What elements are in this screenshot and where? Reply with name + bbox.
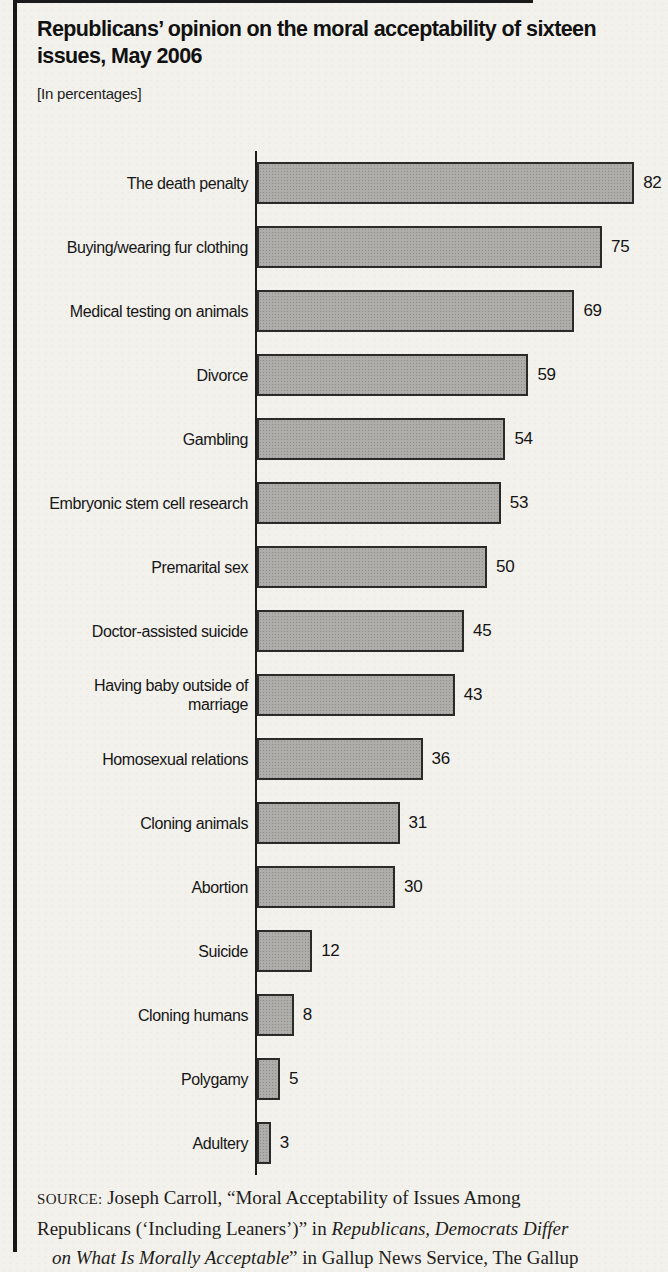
chart-row: Suicide 12 [37, 919, 650, 983]
source-label: SOURCE: [37, 1191, 102, 1207]
category-label: Abortion [37, 878, 255, 897]
chart-row: Medical testing on animals 69 [37, 279, 650, 343]
value-label: 75 [611, 237, 629, 257]
bar-track: 54 [255, 407, 650, 471]
value-label: 53 [510, 493, 528, 513]
chart-row: Embryonic stem cell research 53 [37, 471, 650, 535]
bar-track: 69 [255, 279, 650, 343]
chart-row: Abortion 30 [37, 855, 650, 919]
source-line3: on What Is Morally Acceptable” in Gallup… [37, 1243, 650, 1272]
bar [257, 610, 464, 652]
units-note: [In percentages] [37, 85, 650, 102]
value-label: 50 [496, 557, 514, 577]
value-label: 5 [289, 1069, 298, 1089]
bar [257, 866, 395, 908]
category-label: Suicide [37, 942, 255, 961]
category-label: Homosexual relations [37, 750, 255, 769]
category-label: Medical testing on animals [37, 302, 255, 321]
chart-row: Gambling 54 [37, 407, 650, 471]
chart-row: Buying/wearing fur clothing 75 [37, 215, 650, 279]
category-label: Cloning humans [37, 1006, 255, 1025]
bar [257, 290, 574, 332]
value-label: 8 [303, 1005, 312, 1025]
category-label: Gambling [37, 430, 255, 449]
value-label: 43 [464, 685, 482, 705]
source-line1: Joseph Carroll, “Moral Acceptability of … [102, 1187, 520, 1208]
category-label: Cloning animals [37, 814, 255, 833]
chart-row: Adultery 3 [37, 1111, 650, 1175]
value-label: 12 [321, 941, 339, 961]
bar-track: 45 [255, 599, 650, 663]
value-label: 69 [583, 301, 601, 321]
bar-track: 53 [255, 471, 650, 535]
bar [257, 546, 487, 588]
chart-row: Premarital sex 50 [37, 535, 650, 599]
category-label: Polygamy [37, 1070, 255, 1089]
bar [257, 1058, 280, 1100]
bar-track: 8 [255, 983, 650, 1047]
category-label: The death penalty [37, 174, 255, 193]
category-label: Doctor-assisted suicide [37, 622, 255, 641]
bar-track: 30 [255, 855, 650, 919]
source-line2-roman: Republicans (‘Including Leaners’)” in [37, 1218, 331, 1239]
chart-row: Cloning animals 31 [37, 791, 650, 855]
bar [257, 162, 634, 204]
category-label: Divorce [37, 366, 255, 385]
chart-title: Republicans’ opinion on the moral accept… [37, 16, 650, 70]
bar-track: 50 [255, 535, 650, 599]
bar-track: 43 [255, 663, 650, 727]
chart-row: Polygamy 5 [37, 1047, 650, 1111]
bar [257, 226, 602, 268]
value-label: 45 [473, 621, 491, 641]
value-label: 36 [432, 749, 450, 769]
source-line3-roman: ” in Gallup News Service, The Gallup [289, 1247, 578, 1268]
bar [257, 674, 455, 716]
bar-track: 5 [255, 1047, 650, 1111]
bar-track: 59 [255, 343, 650, 407]
bar [257, 354, 528, 396]
bar-track: 75 [255, 215, 650, 279]
category-label: Buying/wearing fur clothing [37, 238, 255, 257]
bar [257, 738, 423, 780]
value-label: 82 [643, 173, 661, 193]
source-line3-italic: on What Is Morally Acceptable [52, 1247, 289, 1268]
bar-track: 36 [255, 727, 650, 791]
chart-row: Cloning humans 8 [37, 983, 650, 1047]
value-label: 31 [409, 813, 427, 833]
bar [257, 1122, 271, 1164]
chart-row: The death penalty 82 [37, 151, 650, 215]
chart-title-line1: Republicans’ opinion on the moral accept… [37, 17, 596, 41]
bar [257, 482, 501, 524]
category-label: Having baby outside of marriage [37, 676, 255, 714]
bar [257, 994, 294, 1036]
bar-chart: The death penalty 82 Buying/wearing fur … [37, 151, 650, 1175]
source-note: SOURCE: Joseph Carroll, “Moral Acceptabi… [37, 1183, 650, 1272]
bar-track: 3 [255, 1111, 650, 1175]
bar [257, 802, 400, 844]
chart-rows: The death penalty 82 Buying/wearing fur … [37, 151, 650, 1175]
bar-track: 31 [255, 791, 650, 855]
value-label: 3 [280, 1133, 289, 1153]
chart-row: Homosexual relations 36 [37, 727, 650, 791]
bar [257, 930, 312, 972]
value-label: 30 [404, 877, 422, 897]
value-label: 59 [537, 365, 555, 385]
category-label: Premarital sex [37, 558, 255, 577]
bar [257, 418, 505, 460]
category-label: Embryonic stem cell research [37, 494, 255, 513]
category-label: Adultery [37, 1134, 255, 1153]
source-line2-italic: Republicans, Democrats Differ [331, 1218, 568, 1239]
chart-title-line2: issues, May 2006 [37, 44, 202, 68]
chart-row: Doctor-assisted suicide 45 [37, 599, 650, 663]
value-label: 54 [514, 429, 532, 449]
bar-track: 82 [255, 151, 662, 215]
chart-row: Having baby outside of marriage 43 [37, 663, 650, 727]
bar-track: 12 [255, 919, 650, 983]
chart-row: Divorce 59 [37, 343, 650, 407]
